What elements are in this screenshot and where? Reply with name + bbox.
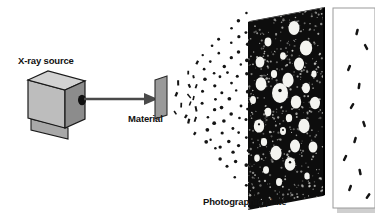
diffraction-spot [280, 52, 286, 60]
plate-grain-dot [250, 154, 252, 156]
plate-grain-dot [311, 129, 313, 131]
plate-grain-dot [265, 157, 266, 158]
plate-grain-dot [320, 109, 322, 111]
plate-grain-dot [315, 68, 317, 70]
plate-grain-dot [321, 71, 322, 72]
scattered-ray-dash [187, 71, 189, 75]
plate-grain-dot [307, 166, 309, 168]
scattered-ray-dot [245, 12, 248, 15]
plate-grain-dot [296, 187, 297, 188]
plate-grain-dot [312, 156, 314, 158]
plate-grain-dot [250, 56, 252, 58]
plate-grain-dot [252, 90, 254, 92]
plate-grain-dot [315, 134, 317, 136]
scattered-ray-dot [245, 72, 248, 75]
plate-grain-dot [316, 26, 317, 27]
plate-grain-dot [266, 77, 268, 79]
scattered-ray-dot [201, 54, 203, 56]
plate-grain-dot [302, 13, 304, 15]
plate-grain-dot [252, 172, 254, 174]
scattered-ray-dot [244, 31, 247, 34]
plate-grain-dot [249, 164, 250, 165]
plate-grain-dot [275, 33, 277, 35]
scattered-ray-dot [214, 147, 217, 150]
plate-grain-dot [308, 186, 310, 188]
plate-grain-dot [269, 131, 271, 133]
plate-grain-dot [302, 107, 304, 109]
plate-grain-dot [248, 65, 249, 66]
scattered-ray-dash [177, 80, 179, 85]
plate-grain-dot [267, 67, 269, 69]
scattered-ray-dot [204, 140, 208, 144]
plate-grain-dot [306, 111, 308, 113]
plate-grain-dot [279, 139, 281, 141]
plate-grain-dot [305, 63, 306, 64]
plate-grain-dot [283, 160, 284, 161]
plate-grain-dot [249, 193, 250, 194]
plate-grain-dot [318, 111, 319, 112]
scattered-ray-dot [230, 56, 233, 59]
plate-grain-dot [321, 13, 323, 15]
plate-grain-dot [264, 51, 266, 53]
plate-grain-dot [320, 23, 322, 25]
plate-grain-dot [260, 68, 262, 70]
plate-grain-dot [261, 39, 263, 41]
spot-center-dot [282, 129, 284, 131]
plate-grain-dot [261, 75, 263, 77]
plate-grain-dot [261, 33, 263, 35]
plate-grain-dot [292, 63, 293, 64]
plate-grain-dot [276, 48, 277, 49]
plate-grain-dot [252, 130, 254, 132]
plate-grain-dot [265, 122, 266, 123]
scattered-ray-dot [226, 71, 229, 74]
plate-grain-dot [302, 141, 303, 142]
plate-grain-dot [282, 113, 283, 114]
plate-grain-dot [308, 181, 309, 182]
plate-grain-dot [308, 195, 309, 196]
plate-grain-dot [300, 170, 302, 172]
scattered-ray-dot [234, 160, 237, 163]
scattered-ray-dot [237, 19, 241, 23]
plate-grain-dot [263, 53, 265, 55]
plate-grain-dot [248, 85, 250, 87]
plate-grain-dot [291, 194, 293, 196]
plate-grain-dot [295, 170, 296, 171]
plate-grain-dot [277, 139, 278, 140]
plate-grain-dot [253, 31, 255, 33]
plate-grain-dot [296, 135, 298, 137]
scattered-ray-dot [227, 140, 231, 144]
plate-grain-dot [319, 81, 321, 83]
plate-grain-dot [276, 61, 278, 63]
plate-grain-dot [250, 148, 252, 150]
plate-grain-dot [296, 86, 298, 88]
plate-grain-dot [291, 54, 293, 56]
diffraction-spot [254, 119, 264, 132]
plate-grain-dot [263, 45, 265, 47]
plate-grain-dot [301, 106, 302, 107]
diffraction-spot [294, 58, 304, 71]
plate-grain-dot [300, 79, 301, 80]
plate-grain-dot [315, 12, 317, 14]
scattered-ray-dot [237, 144, 240, 147]
plate-grain-dot [261, 158, 263, 160]
scattered-ray-dot [220, 91, 223, 94]
plate-grain-dot [252, 187, 254, 189]
diffraction-spot [256, 77, 267, 91]
plate-grain-dot [263, 48, 264, 49]
plate-grain-dot [318, 169, 320, 171]
plate-grain-dot [264, 117, 265, 118]
plate-grain-dot [255, 111, 256, 112]
diffraction-spot [261, 138, 267, 146]
plate-grain-dot [311, 139, 313, 141]
scattered-ray-dot [226, 165, 229, 168]
plate-grain-dot [282, 20, 284, 22]
plate-grain-dot [303, 102, 304, 103]
plate-grain-dot [297, 196, 299, 198]
plate-grain-dot [302, 150, 304, 152]
scattered-ray-dot [236, 75, 239, 78]
plate-grain-dot [289, 150, 290, 151]
scattered-ray-dot [237, 131, 240, 134]
plate-grain-dot [312, 175, 313, 176]
scattered-ray-dot [244, 163, 248, 167]
plate-grain-dot [252, 113, 253, 114]
